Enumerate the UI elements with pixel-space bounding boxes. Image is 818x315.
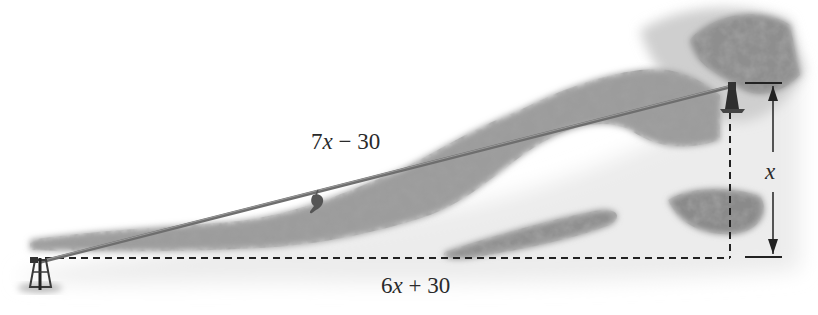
hypotenuse-operator: − [333, 129, 357, 154]
base-operator: + [403, 273, 427, 298]
hypotenuse-label: 7x − 30 [311, 130, 380, 153]
base-coef: 6 [381, 273, 393, 298]
height-variable: x [765, 159, 775, 184]
hypotenuse-coef: 7 [311, 129, 323, 154]
diagram-canvas [0, 0, 818, 315]
height-label: x [765, 160, 775, 183]
hypotenuse-constant: 30 [357, 129, 380, 154]
base-variable: x [393, 273, 403, 298]
zipline-diagram: 7x − 30 6x + 30 x [0, 0, 818, 315]
base-constant: 30 [427, 273, 450, 298]
base-label: 6x + 30 [381, 274, 450, 297]
hypotenuse-variable: x [323, 129, 333, 154]
